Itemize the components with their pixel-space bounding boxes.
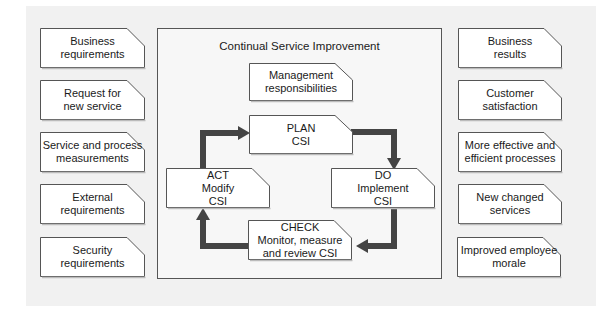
- output-business-results: Business results: [458, 28, 562, 68]
- arrowhead-act: [196, 208, 210, 220]
- output-customer-satisfaction: Customer satisfaction: [458, 80, 562, 120]
- output-improved-employee-morale: Improved employee morale: [457, 237, 561, 277]
- output-effective-processes: More effective and efficient processes: [458, 132, 562, 172]
- arrow-check-to-act: [203, 218, 249, 246]
- arrow-plan-to-do: [351, 132, 394, 160]
- input-service-process-measurements: Service and process measurements: [40, 132, 145, 172]
- input-business-requirements: Business requirements: [40, 28, 145, 68]
- arrowhead-check: [356, 239, 368, 253]
- input-security-requirements: Security requirements: [40, 237, 145, 277]
- output-new-changed-services: New changed services: [458, 184, 562, 224]
- cycle-plan: PLAN CSI: [249, 115, 353, 154]
- cycle-act: ACT Modify CSI: [166, 168, 270, 208]
- cycle-do: DO Implement CSI: [331, 168, 435, 208]
- arrow-act-to-plan: [203, 133, 240, 168]
- management-responsibilities: Management responsibilities: [249, 63, 353, 101]
- arrow-do-to-check: [366, 209, 394, 246]
- input-external-requirements: External requirements: [40, 184, 145, 224]
- input-request-new-service: Request for new service: [40, 80, 145, 120]
- cycle-check: CHECK Monitor, measure and review CSI: [248, 220, 352, 260]
